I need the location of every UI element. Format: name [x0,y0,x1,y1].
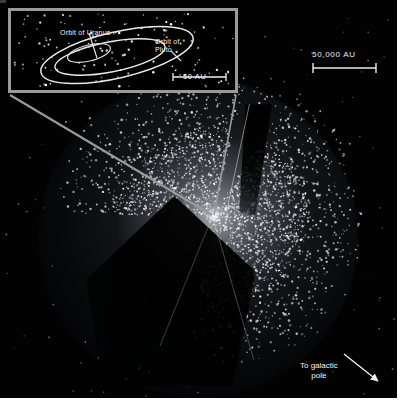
page-margin-bottom [0,398,401,404]
page-margin-corner [0,0,6,3]
galactic-pole-arrow [0,0,401,404]
oort-cloud-figure: Orbit of Uranus Orbit of Pluto 50 AU 50,… [0,0,401,404]
galactic-pole-label-line2: pole [300,371,338,381]
page-margin-right [397,0,401,404]
galactic-pole-label: To galactic pole [300,361,338,380]
galactic-pole-label-line1: To galactic [300,361,338,371]
